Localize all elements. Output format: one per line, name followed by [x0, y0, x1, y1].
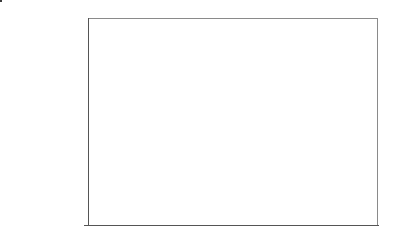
bar-modern: [0, 0, 2, 2]
y-axis: [88, 18, 89, 226]
x-axis: [84, 225, 379, 226]
plot-area: [88, 18, 378, 225]
